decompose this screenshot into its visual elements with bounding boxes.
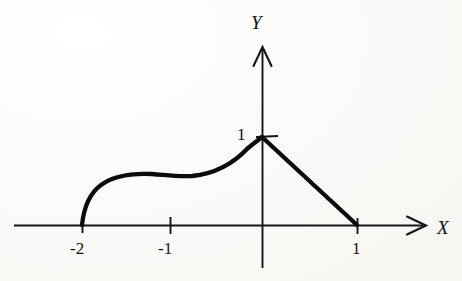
series-straight-branch (262, 137, 357, 225)
tick-label-x-pos1: 1 (352, 240, 361, 257)
tick-label-x-neg1: -1 (158, 240, 172, 257)
series-curved-branch (82, 137, 262, 225)
y-axis-label: Y (251, 13, 262, 32)
x-axis-group (14, 217, 426, 235)
tick-label-x-neg2: -2 (70, 240, 84, 257)
x-axis-label: X (437, 218, 449, 237)
tick-label-y-pos1: 1 (237, 126, 246, 143)
function-plot-group (82, 137, 357, 225)
math-figure: Y X O -2 -1 1 1 (0, 0, 462, 281)
y-axis-group (254, 47, 272, 268)
